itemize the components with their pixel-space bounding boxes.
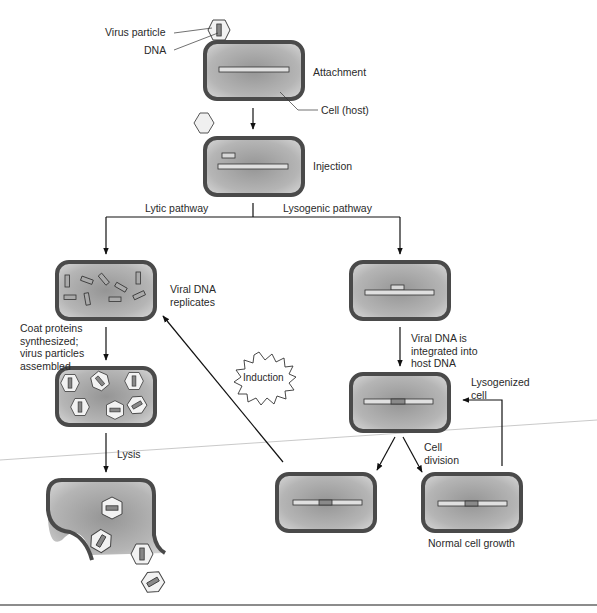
- label-lytic-pathway: Lytic pathway: [145, 202, 208, 215]
- phage-cycle-diagram: [0, 0, 597, 613]
- label-viral-dna-integrated: Viral DNA is integrated into host DNA: [411, 332, 489, 370]
- cell-injection: [205, 138, 303, 195]
- label-dna: DNA: [144, 44, 166, 57]
- cell-replication: [57, 262, 155, 319]
- label-coat-proteins: Coat proteins synthesized; virus particl…: [20, 322, 92, 372]
- label-induction: Induction: [243, 372, 284, 385]
- label-attachment: Attachment: [313, 66, 366, 79]
- cell-lysed: [48, 480, 167, 597]
- label-cell-host: Cell (host): [321, 104, 369, 117]
- label-normal-cell-growth: Normal cell growth: [428, 537, 515, 550]
- cell-assembly: [57, 368, 155, 425]
- label-cell-division: Cell division: [424, 441, 464, 466]
- label-injection: Injection: [313, 160, 352, 173]
- cell-daughter-right: [423, 474, 521, 531]
- label-viral-dna-replicates: Viral DNA replicates: [170, 283, 230, 308]
- label-lysogenized-cell: Lysogenized cell: [471, 376, 533, 401]
- cell-lysogenized: [351, 374, 449, 431]
- label-virus-particle: Virus particle: [105, 26, 166, 39]
- cell-daughter-left: [277, 474, 375, 531]
- label-lysis: Lysis: [117, 448, 141, 461]
- empty-capsid-icon: [194, 113, 214, 133]
- cell-attachment: [205, 42, 303, 99]
- label-lysogenic-pathway: Lysogenic pathway: [283, 202, 372, 215]
- virus-particle-icon: [208, 20, 230, 40]
- cell-lysogenic-entry: [351, 262, 449, 319]
